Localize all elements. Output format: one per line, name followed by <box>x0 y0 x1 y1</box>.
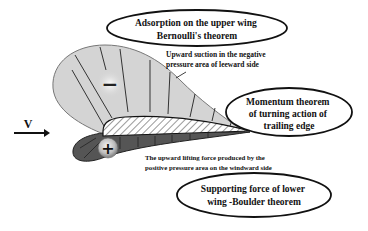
airfoil-diagram: − + V Adsorption on the upper wing Berno… <box>0 0 368 231</box>
callout-lower-wing <box>177 173 331 217</box>
callout-trailing-line3: trailing edge <box>264 121 315 131</box>
suction-annotation-line2: pressure area of leeward side <box>166 60 260 69</box>
positive-pressure-sign: + <box>101 139 114 158</box>
svg-text:The upward lifting force produ: The upward lifting force produced by the… <box>145 154 272 171</box>
suction-pointer <box>176 72 186 78</box>
callout-lower-line2: wing -Boulder theorem <box>207 197 301 207</box>
callout-lower-line1: Supporting force of lower <box>201 184 306 194</box>
suction-annotation-line1: Upward suction in the negative <box>166 50 266 59</box>
velocity-label: V <box>24 117 33 131</box>
negative-pressure-sign: − <box>102 72 119 96</box>
callout-trailing-line1: Momentum theorem <box>246 97 330 107</box>
svg-text:Upward suction in the negative: Upward suction in the negative pressure … <box>166 50 267 69</box>
callout-upper-line2: Bernoulli's theorem <box>157 31 237 41</box>
lifting-annotation-line2: positive pressure area on the windward s… <box>145 164 272 171</box>
lifting-annotation-line1: The upward lifting force produced by the <box>145 154 265 161</box>
callout-trailing-line2: of turning action of <box>249 109 328 119</box>
callout-upper-line1: Adsorption on the upper wing <box>135 18 257 28</box>
